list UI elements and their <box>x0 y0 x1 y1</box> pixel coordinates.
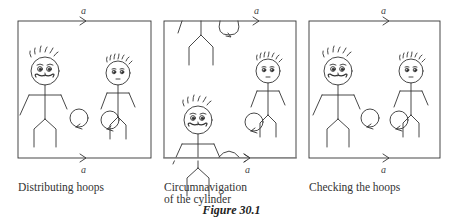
figure-title: Figure 30.1 <box>0 203 463 218</box>
hoop-icon <box>361 109 379 129</box>
panel-3-frame <box>309 21 440 158</box>
panel-distributing <box>18 17 151 162</box>
edge-label: a <box>245 164 250 175</box>
hoop-icon <box>70 109 88 129</box>
big-man-figure <box>20 46 67 147</box>
edge-label: a <box>381 164 386 175</box>
panel-1-frame <box>18 21 151 158</box>
edge-label: a <box>381 5 386 16</box>
panel-circumnavigation <box>164 17 296 196</box>
panel-checking <box>309 17 440 162</box>
caption-line-1: Circumnavigation <box>164 181 247 193</box>
boy-figure <box>251 52 285 137</box>
edge-label: a <box>81 5 86 16</box>
caption-distributing: Distributing hoops <box>18 181 104 193</box>
caption-checking: Checking the hoops <box>309 181 400 193</box>
panel-2-frame <box>164 21 296 158</box>
boy-figure <box>101 54 135 139</box>
big-man-figure <box>313 46 360 147</box>
edge-label: a <box>254 5 259 16</box>
edge-label: a <box>81 164 86 175</box>
boy-figure <box>394 52 428 137</box>
caption-circumnavigation: Circumnavigation of the cylinder <box>164 181 247 205</box>
